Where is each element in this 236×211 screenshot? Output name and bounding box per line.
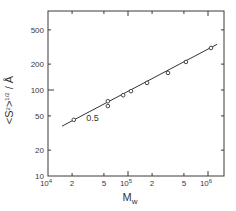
data-point xyxy=(106,104,110,108)
plot-frame xyxy=(48,11,224,176)
y-tick-label: 200 xyxy=(31,60,45,69)
x-tick-label: 2 xyxy=(150,179,155,188)
x-tick-label: 2 xyxy=(70,179,75,188)
y-tick-label: 100 xyxy=(31,86,45,95)
x-tick-label: 106 xyxy=(200,178,213,188)
y-axis-title: <S2>1/2 / Å xyxy=(3,75,15,124)
plot-labels: 10425105251061020501002005000.5Mw<S2>1/2… xyxy=(3,26,213,206)
x-tick-label: 5 xyxy=(182,179,187,188)
x-tick-label: 5 xyxy=(102,179,107,188)
plot-axes xyxy=(48,11,224,176)
y-tick-label: 20 xyxy=(35,146,44,155)
y-tick-label: 500 xyxy=(31,26,45,35)
y-tick-label: 10 xyxy=(35,172,44,181)
x-tick-label: 105 xyxy=(120,178,133,188)
data-point xyxy=(121,93,125,97)
data-point xyxy=(209,46,213,50)
data-point xyxy=(145,81,149,85)
data-point xyxy=(129,89,133,93)
data-point xyxy=(106,99,110,103)
chart: 10425105251061020501002005000.5Mw<S2>1/2… xyxy=(0,0,236,211)
data-point xyxy=(72,118,76,122)
data-point xyxy=(166,71,170,75)
x-axis-title: Mw xyxy=(123,191,138,206)
slope-annotation: 0.5 xyxy=(86,113,99,123)
data-point xyxy=(184,60,188,64)
y-tick-label: 50 xyxy=(35,112,44,121)
